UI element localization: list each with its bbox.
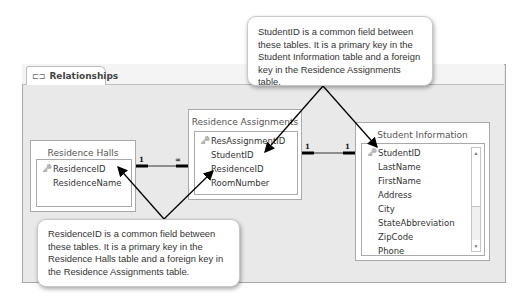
callout-residenceid: ResidenceID is a common field between th…: [37, 219, 240, 287]
callout-text: StudentID is a common field between thes…: [258, 26, 420, 87]
cardinality-one: 1: [305, 142, 310, 151]
callout-text: ResidenceID is a common field between th…: [48, 228, 223, 277]
cardinality-many: ∞: [175, 155, 181, 164]
cardinality-one: 1: [139, 155, 144, 164]
cardinality-one: 1: [345, 142, 350, 151]
callout-studentid: StudentID is a common field between thes…: [247, 16, 433, 86]
